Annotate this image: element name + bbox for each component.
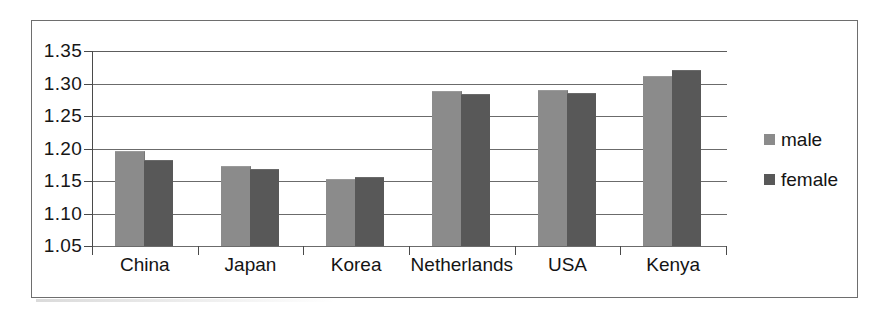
x-axis-label-usa: USA [515, 255, 621, 276]
bar-japan-male [221, 166, 251, 246]
legend-swatch-male [764, 134, 775, 145]
legend-item-male[interactable]: male [764, 131, 859, 147]
y-axis-tick [84, 116, 93, 117]
bar-group [643, 51, 701, 246]
bar-group [432, 51, 490, 246]
bar-korea-female [355, 177, 384, 246]
bar-china-female [144, 160, 173, 246]
y-axis-tick [84, 51, 93, 52]
x-axis-tick [303, 246, 304, 255]
y-axis-tick-label: 1.35 [44, 41, 82, 60]
bar-netherlands-female [461, 94, 490, 246]
bar-chart-figure: 1.351.301.251.201.151.101.05 ChinaJapanK… [0, 0, 889, 316]
legend-label: female [781, 170, 838, 189]
bar-usa-male [538, 90, 568, 246]
y-axis-tick [84, 181, 93, 182]
y-axis-tick-label: 1.05 [44, 236, 82, 255]
bar-netherlands-male [432, 91, 462, 246]
bar-japan-female [250, 169, 279, 246]
y-axis-tick-label: 1.20 [44, 139, 82, 158]
gridline [93, 149, 727, 150]
bar-usa-female [567, 93, 596, 246]
x-axis-label-china: China [92, 255, 198, 276]
bar-korea-male [326, 179, 356, 246]
legend-swatch-female [764, 174, 775, 185]
x-axis-tick [92, 246, 93, 255]
gridline [93, 214, 727, 215]
bar-kenya-female [672, 70, 701, 247]
x-axis-tick [515, 246, 516, 255]
y-axis-tick [84, 84, 93, 85]
x-axis-tick [620, 246, 621, 255]
legend-item-female[interactable]: female [764, 171, 859, 187]
gridline-top [93, 51, 727, 52]
bar-group [326, 51, 384, 246]
x-axis-labels: ChinaJapanKoreaNetherlandsUSAKenya [92, 255, 726, 285]
x-axis-label-korea: Korea [303, 255, 409, 276]
x-axis-tick [198, 246, 199, 255]
x-axis-label-kenya: Kenya [620, 255, 726, 276]
bar-kenya-male [643, 76, 673, 246]
y-axis-tick-label: 1.30 [44, 74, 82, 93]
x-axis-tick [409, 246, 410, 255]
y-axis-tick [84, 214, 93, 215]
plot-area [92, 51, 727, 247]
x-axis-tick [726, 246, 727, 255]
chart-legend: malefemale [764, 131, 859, 211]
legend-label: male [781, 130, 822, 149]
bar-group [115, 51, 173, 246]
bar-china-male [115, 151, 145, 246]
y-axis-tick-label: 1.25 [44, 106, 82, 125]
gridline [93, 84, 727, 85]
x-axis-label-japan: Japan [198, 255, 304, 276]
bar-group [538, 51, 596, 246]
y-axis-tick-label: 1.15 [44, 171, 82, 190]
gridline [93, 116, 727, 117]
x-axis-label-netherlands: Netherlands [409, 255, 515, 276]
bar-group [221, 51, 279, 246]
y-axis-tick [84, 149, 93, 150]
y-axis-labels: 1.351.301.251.201.151.101.05 [0, 0, 82, 316]
gridline [93, 181, 727, 182]
y-axis-tick-label: 1.10 [44, 204, 82, 223]
